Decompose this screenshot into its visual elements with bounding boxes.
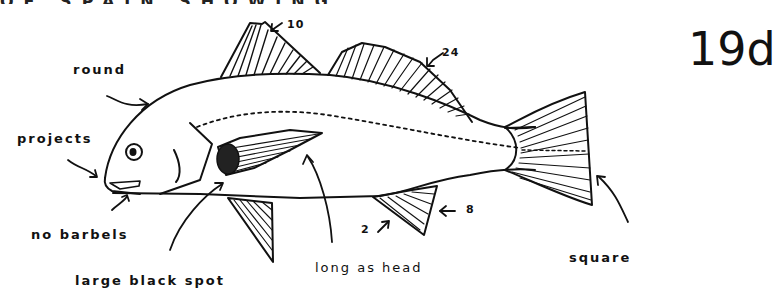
label-no-barbels: no barbels — [31, 227, 129, 242]
body-outline — [105, 74, 535, 178]
fish-identification-diagram: OF SPAIN SHOWING — [0, 0, 782, 302]
large-black-spot-mark — [217, 144, 239, 174]
count-spiny-dorsal: 10 — [287, 18, 304, 31]
pointer-arrows — [68, 23, 628, 250]
count-anal-soft: 8 — [466, 203, 475, 216]
pelvic-fin — [228, 198, 273, 262]
preopercle — [174, 150, 180, 182]
lateral-line — [197, 112, 520, 148]
label-large-black-spot: large black spot — [75, 273, 225, 288]
opercle — [160, 123, 212, 194]
label-projects: projects — [17, 131, 93, 146]
label-long-as-head: long as head — [315, 260, 423, 275]
count-soft-dorsal: 24 — [442, 46, 459, 59]
label-round: round — [73, 62, 126, 77]
plate-id: 19d — [688, 22, 776, 76]
mouth — [110, 181, 140, 189]
count-anal-spines: 2 — [361, 223, 370, 236]
fish-illustration — [0, 0, 782, 302]
label-square: square — [569, 250, 631, 265]
caudal-fin — [505, 92, 592, 205]
pectoral-fin — [217, 130, 322, 175]
